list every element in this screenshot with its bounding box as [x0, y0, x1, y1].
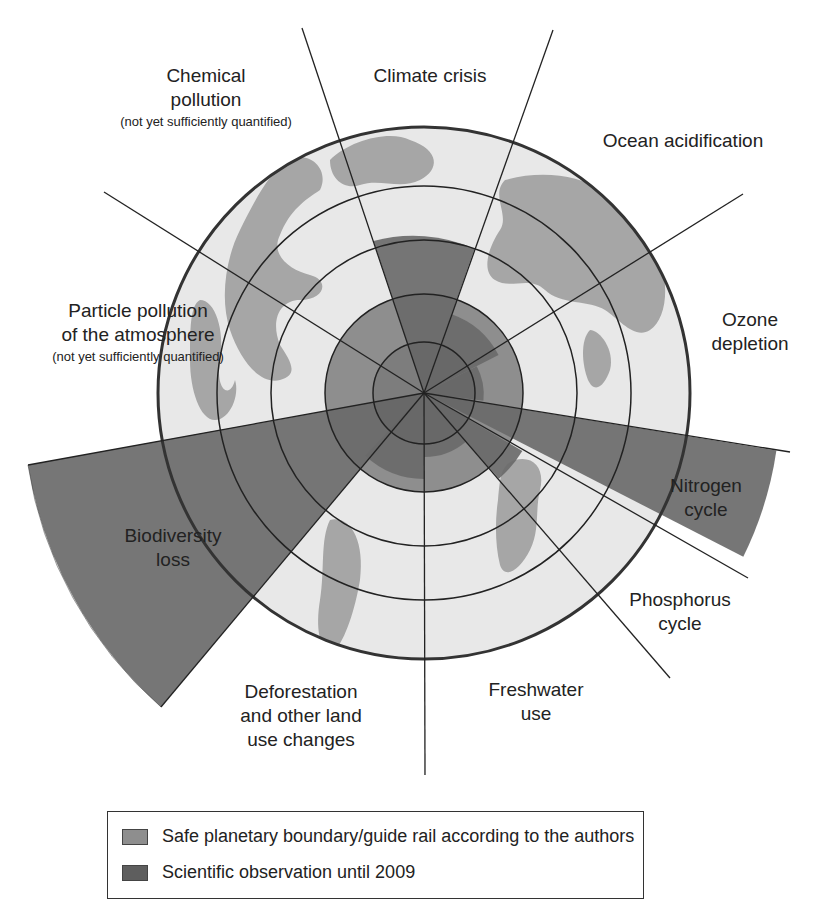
label-deforestation: Deforestation and other land use changes	[225, 680, 377, 752]
label-sub: (not yet sufficiently quantified)	[96, 112, 316, 132]
label-line: loss	[156, 549, 190, 570]
label-chemical-pollution: Chemical pollution (not yet sufficiently…	[96, 64, 316, 132]
label-particle-pollution: Particle pollution of the atmosphere (no…	[28, 299, 248, 367]
label-line: pollution	[171, 89, 242, 110]
label-line: use changes	[247, 729, 355, 750]
swatch-safe-boundary	[122, 829, 148, 845]
label-ozone-depletion: Ozone depletion	[700, 308, 800, 356]
label-freshwater-use: Freshwater use	[476, 678, 596, 726]
label-sub: (not yet sufficiently quantified)	[28, 347, 248, 367]
label-line: Freshwater	[488, 679, 583, 700]
label-line: Biodiversity	[124, 525, 221, 546]
label-line: Phosphorus	[629, 589, 730, 610]
label-line: Deforestation	[244, 681, 357, 702]
legend-label: Scientific observation until 2009	[162, 862, 415, 883]
label-line: Climate crisis	[374, 65, 487, 86]
label-nitrogen-cycle: Nitrogen cycle	[666, 474, 746, 522]
label-line: Ocean acidification	[603, 130, 764, 151]
label-phosphorus-cycle: Phosphorus cycle	[620, 588, 740, 636]
swatch-observation	[122, 865, 148, 881]
label-line: use	[521, 703, 552, 724]
label-line: cycle	[658, 613, 701, 634]
legend-item-observation: Scientific observation until 2009	[122, 862, 415, 883]
label-line: Ozone	[722, 309, 778, 330]
label-line: of the atmosphere	[61, 324, 214, 345]
legend: Safe planetary boundary/guide rail accor…	[107, 811, 644, 899]
label-line: Nitrogen	[670, 475, 742, 496]
legend-label: Safe planetary boundary/guide rail accor…	[162, 826, 634, 847]
legend-item-safe-boundary: Safe planetary boundary/guide rail accor…	[122, 826, 634, 847]
label-ocean-acidification: Ocean acidification	[583, 129, 783, 153]
label-line: depletion	[711, 333, 788, 354]
label-biodiversity-loss: Biodiversity loss	[118, 524, 228, 572]
label-line: Chemical	[166, 65, 245, 86]
label-climate-crisis: Climate crisis	[360, 64, 500, 88]
label-line: Particle pollution	[68, 300, 207, 321]
label-line: and other land	[240, 705, 362, 726]
label-line: cycle	[684, 499, 727, 520]
